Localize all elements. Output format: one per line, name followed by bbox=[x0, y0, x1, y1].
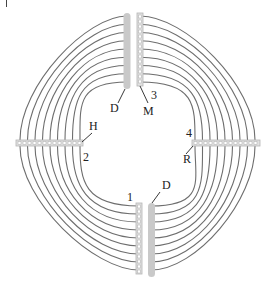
label-top-rod: D bbox=[110, 102, 119, 114]
label-number-1: 1 bbox=[127, 191, 133, 203]
label-left-ladder: H bbox=[89, 120, 98, 132]
bottom-rod bbox=[148, 203, 155, 277]
label-bottom-rod: D bbox=[162, 179, 171, 191]
right-ladder bbox=[192, 140, 260, 146]
bottom-ladder bbox=[136, 203, 142, 274]
leader-lines bbox=[82, 86, 193, 203]
label-number-2: 2 bbox=[83, 151, 89, 163]
arc-diagram bbox=[0, 0, 275, 286]
left-ladder bbox=[16, 140, 83, 146]
label-number-4: 4 bbox=[186, 127, 192, 139]
top-ladder bbox=[137, 13, 143, 86]
top-rod bbox=[124, 13, 131, 89]
label-top-ladder: M bbox=[143, 105, 154, 117]
label-right-ladder: R bbox=[183, 153, 191, 165]
label-number-3: 3 bbox=[151, 89, 157, 101]
